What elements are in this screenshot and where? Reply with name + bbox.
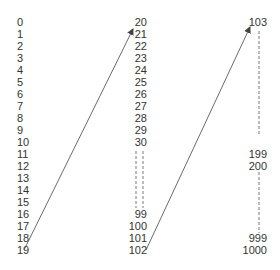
connector-overlay	[0, 0, 280, 270]
arrow-19-to-20	[24, 29, 133, 250]
arrow-102-to-103	[146, 27, 250, 250]
